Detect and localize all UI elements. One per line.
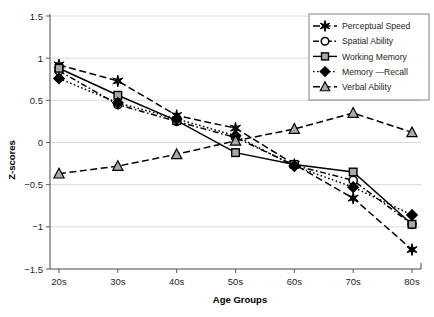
- x-tick-label: 70s: [346, 276, 362, 287]
- x-tick-label: 20s: [51, 276, 67, 287]
- legend-item-verbal-ability[interactable]: Verbal Ability: [313, 82, 392, 92]
- x-axis-title: Age Groups: [213, 294, 267, 305]
- marker-square: [322, 53, 329, 60]
- y-axis-tick-labels: 1.510.50−0.5−1−1.5: [24, 11, 43, 275]
- chart-container: 1.510.50−0.5−1−1.5 20s30s40s50s60s70s80s…: [0, 0, 434, 317]
- x-tick-label: 50s: [228, 276, 244, 287]
- x-tick-label: 40s: [169, 276, 185, 287]
- marker-star: [407, 244, 417, 256]
- marker-square: [232, 149, 240, 157]
- legend-item-spatial-ability[interactable]: Spatial Ability: [313, 36, 394, 46]
- y-tick-label: −0.5: [24, 179, 43, 190]
- x-tick-label: 60s: [287, 276, 303, 287]
- y-tick-label: −1.5: [24, 264, 43, 275]
- z-scores-line-chart: 1.510.50−0.5−1−1.5 20s30s40s50s60s70s80s…: [0, 0, 434, 317]
- x-axis-tick-labels: 20s30s40s50s60s70s80s: [51, 276, 420, 287]
- legend-label: Spatial Ability: [342, 36, 394, 46]
- marker-diamond: [407, 210, 418, 221]
- marker-triangle: [172, 149, 182, 159]
- y-tick-label: 0: [38, 137, 43, 148]
- y-axis-title: Z-scores: [6, 140, 17, 180]
- marker-triangle: [348, 108, 358, 118]
- legend-item-working-memory[interactable]: Working Memory: [313, 52, 407, 62]
- legend-label: Working Memory: [342, 52, 407, 62]
- marker-star: [113, 75, 123, 87]
- chart-legend[interactable]: Perceptual SpeedSpatial AbilityWorking M…: [309, 14, 429, 100]
- x-tick-label: 80s: [404, 276, 420, 287]
- marker-square: [55, 64, 63, 72]
- marker-star: [348, 192, 358, 204]
- legend-label: Perceptual Speed: [342, 21, 411, 31]
- marker-circle: [321, 37, 329, 45]
- y-tick-label: 1: [38, 53, 43, 64]
- marker-triangle: [113, 161, 123, 171]
- y-tick-label: 1.5: [30, 11, 43, 22]
- y-tick-label: 0.5: [30, 95, 43, 106]
- x-tick-label: 30s: [110, 276, 126, 287]
- legend-label: Memory —Recall: [342, 67, 408, 77]
- marker-square: [408, 221, 416, 229]
- legend-label: Verbal Ability: [342, 82, 392, 92]
- marker-diamond: [54, 73, 65, 84]
- marker-square: [349, 168, 357, 176]
- y-tick-label: −1: [32, 221, 43, 232]
